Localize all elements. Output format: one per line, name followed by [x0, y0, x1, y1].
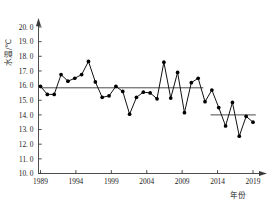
- data-point: [203, 100, 207, 104]
- x-tick-label: 2004: [139, 177, 154, 186]
- data-point: [189, 81, 193, 85]
- data-point: [59, 73, 63, 77]
- data-series-line: [41, 61, 254, 136]
- x-tick-label: 1999: [104, 177, 119, 186]
- data-point: [210, 88, 214, 92]
- series-polyline: [41, 61, 254, 136]
- y-tick-label: 10. 0: [19, 169, 34, 178]
- data-point: [183, 111, 187, 115]
- y-axis-arrow: [36, 18, 41, 26]
- chart-canvas: 10. 011. 012. 013. 014. 015. 016. 017. 0…: [0, 0, 279, 208]
- data-point: [128, 112, 132, 116]
- y-tick-label: 19. 0: [19, 37, 34, 46]
- reference-lines: [41, 88, 256, 115]
- x-axis: 1989199419992004200920142019: [33, 170, 267, 186]
- data-point: [87, 60, 91, 64]
- data-point: [100, 95, 104, 99]
- x-tick-label: 1989: [33, 177, 48, 186]
- y-tick-label: 11. 0: [19, 155, 34, 164]
- data-point: [155, 97, 159, 101]
- data-point: [169, 96, 173, 100]
- data-point: [237, 134, 241, 138]
- y-tick-label: 16. 0: [19, 81, 34, 90]
- data-point: [176, 71, 180, 75]
- y-axis: 10. 011. 012. 013. 014. 015. 016. 017. 0…: [19, 18, 42, 178]
- y-tick-label: 13. 0: [19, 125, 34, 134]
- data-point: [162, 60, 166, 64]
- data-point: [196, 76, 200, 80]
- data-point: [224, 124, 228, 128]
- data-point: [141, 90, 145, 94]
- data-point: [148, 91, 152, 95]
- x-tick-label: 2014: [210, 177, 225, 186]
- data-point: [135, 95, 139, 99]
- x-tick-label: 1994: [69, 177, 84, 186]
- x-tick-label: 2009: [175, 177, 190, 186]
- data-point: [217, 106, 221, 110]
- y-tick-label: 20. 0: [19, 23, 34, 32]
- data-points: [39, 60, 255, 138]
- data-point: [46, 93, 50, 97]
- y-tick-label: 15. 0: [19, 96, 34, 105]
- x-axis-arrow: [259, 171, 267, 176]
- data-point: [73, 76, 77, 80]
- x-tick-label: 2019: [246, 177, 261, 186]
- y-tick-label: 18. 0: [19, 52, 34, 61]
- data-point: [107, 94, 111, 98]
- y-tick-label: 14. 0: [19, 111, 34, 120]
- water-temperature-chart: 10. 011. 012. 013. 014. 015. 016. 017. 0…: [0, 0, 279, 208]
- data-point: [244, 115, 248, 119]
- y-axis-title: 水温/℃: [3, 39, 13, 66]
- data-point: [231, 101, 235, 105]
- data-point: [93, 80, 97, 84]
- data-point: [114, 84, 118, 88]
- data-point: [251, 120, 255, 124]
- data-point: [39, 84, 43, 88]
- y-tick-label: 17. 0: [19, 67, 34, 76]
- x-axis-title: 年份: [230, 190, 246, 200]
- data-point: [66, 79, 70, 83]
- data-point: [52, 93, 56, 97]
- data-point: [121, 90, 125, 94]
- data-point: [80, 73, 84, 77]
- y-tick-label: 12. 0: [19, 140, 34, 149]
